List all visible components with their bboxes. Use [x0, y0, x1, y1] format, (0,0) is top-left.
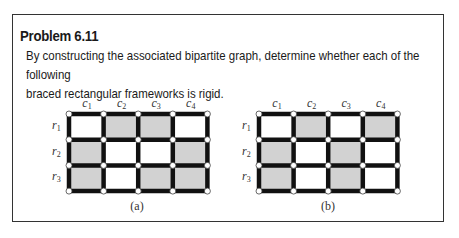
unbraced-cell [104, 140, 139, 166]
column-label: c2 [307, 96, 316, 111]
braced-cell [138, 165, 173, 191]
unbraced-cell [294, 165, 329, 191]
joint-node [135, 137, 141, 143]
joint-node [170, 137, 176, 143]
joint-node [66, 188, 72, 194]
joint-node [101, 162, 107, 168]
row-label: r1 [52, 118, 61, 133]
column-label: c4 [376, 96, 385, 111]
joint-node [135, 188, 141, 194]
joint-node [204, 162, 210, 168]
joint-node [204, 188, 210, 194]
figure-caption-b: (b) [313, 199, 343, 214]
joint-node [360, 111, 366, 117]
braced-cell [173, 165, 208, 191]
column-label: c2 [117, 96, 126, 111]
joint-node [101, 137, 107, 143]
figure-caption-a: (a) [122, 199, 152, 214]
joint-node [101, 188, 107, 194]
unbraced-cell [69, 114, 104, 140]
joint-node [135, 111, 141, 117]
joint-node [256, 188, 262, 194]
braced-cell [259, 140, 294, 166]
braced-cell [69, 140, 104, 166]
joint-node [170, 111, 176, 117]
framework-figure-a: c1c2c3c4r1r2r3c1c2c3c4r1r2r3 [0, 0, 459, 238]
braced-cell [69, 165, 104, 191]
joint-node [291, 111, 297, 117]
joint-node [66, 162, 72, 168]
unbraced-cell [259, 114, 294, 140]
row-label: r3 [52, 169, 61, 184]
joint-node [170, 162, 176, 168]
joint-node [256, 137, 262, 143]
joint-node [394, 188, 400, 194]
joint-node [325, 162, 331, 168]
unbraced-cell [138, 140, 173, 166]
column-label: c4 [186, 96, 195, 111]
joint-node [204, 137, 210, 143]
braced-cell [294, 114, 329, 140]
row-label: r1 [242, 118, 251, 133]
joint-node [66, 111, 72, 117]
row-label: r2 [242, 144, 251, 159]
row-label: r3 [242, 169, 251, 184]
column-label: c1 [272, 96, 281, 111]
joint-node [360, 188, 366, 194]
joint-node [360, 137, 366, 143]
joint-node [170, 188, 176, 194]
framework-a: c1c2c3c4r1r2r3 [52, 96, 210, 194]
unbraced-cell [363, 165, 398, 191]
joint-node [325, 111, 331, 117]
braced-cell [363, 114, 398, 140]
joint-node [256, 162, 262, 168]
joint-node [135, 162, 141, 168]
unbraced-cell [104, 165, 139, 191]
joint-node [394, 162, 400, 168]
joint-node [360, 162, 366, 168]
framework-b: c1c2c3c4r1r2r3 [242, 96, 400, 194]
braced-cell [173, 140, 208, 166]
column-label: c1 [82, 96, 91, 111]
joint-node [101, 111, 107, 117]
column-label: c3 [152, 96, 161, 111]
joint-node [291, 188, 297, 194]
joint-node [256, 111, 262, 117]
joint-node [394, 111, 400, 117]
braced-cell [104, 114, 139, 140]
joint-node [291, 137, 297, 143]
unbraced-cell [328, 114, 363, 140]
joint-node [291, 162, 297, 168]
unbraced-cell [294, 140, 329, 166]
braced-cell [328, 165, 363, 191]
row-label: r2 [52, 144, 61, 159]
braced-cell [328, 140, 363, 166]
unbraced-cell [173, 114, 208, 140]
braced-cell [138, 114, 173, 140]
joint-node [325, 137, 331, 143]
joint-node [204, 111, 210, 117]
unbraced-cell [363, 140, 398, 166]
joint-node [66, 137, 72, 143]
joint-node [394, 137, 400, 143]
braced-cell [259, 165, 294, 191]
joint-node [325, 188, 331, 194]
column-label: c3 [342, 96, 351, 111]
